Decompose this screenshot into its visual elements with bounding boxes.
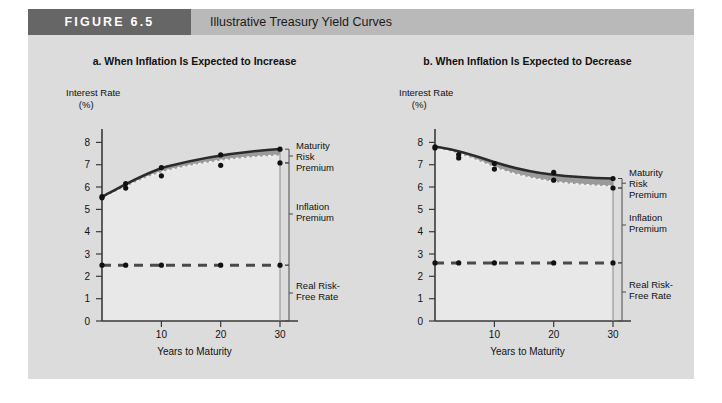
panel-b-bracket-maturity: [618, 179, 626, 189]
panel-b-ytick-3: 3: [417, 249, 423, 260]
panel-b-ytick-2: 2: [417, 271, 423, 282]
panel-b-label-inflation-1: Inflation: [629, 212, 662, 223]
panel-a-y-tick-labels: 0 1 2 3 4 5 6 7 8: [84, 137, 90, 327]
panel-a-label-maturity-2: Risk: [296, 151, 315, 162]
panel-a-bracket-real: [285, 265, 293, 321]
panel-a-xtick-30: 30: [274, 329, 286, 340]
figure-container: FIGURE 6.5 Illustrative Treasury Yield C…: [28, 9, 694, 379]
figure-body: a. When Inflation Is Expected to Increas…: [28, 35, 694, 379]
panel-a-x-axis-label: Years to Maturity: [28, 346, 361, 357]
panel-a-bracket-inflation: [285, 163, 293, 265]
panel-a-ytick-1: 1: [84, 293, 90, 304]
panel-a-plot: 0 1 2 3 4 5 6 7 8: [70, 121, 355, 343]
figure-title: Illustrative Treasury Yield Curves: [210, 9, 392, 35]
panel-a-label-maturity-1: Maturity: [296, 140, 330, 151]
panel-b-title: b. When Inflation Is Expected to Decreas…: [361, 55, 694, 67]
panel-a-x-ticks: [161, 321, 280, 327]
panel-b-chart-svg: 0 1 2 3 4 5 6 7 8: [403, 121, 688, 343]
panel-b-label-inflation-2: Premium: [629, 223, 667, 234]
panel-a-label-inflation-1: Inflation: [296, 201, 329, 212]
panel-b-xtick-10: 10: [489, 329, 501, 340]
panel-a-label-real-1: Real Risk-: [296, 280, 340, 291]
panel-b-x-tick-labels: 10 20 30: [489, 329, 619, 340]
panel-b-ytick-7: 7: [417, 159, 423, 170]
panel-b-bracket-real: [618, 263, 626, 321]
panel-a-xtick-10: 10: [156, 329, 168, 340]
panel-b-xtick-30: 30: [607, 329, 619, 340]
panel-a-chart-svg: 0 1 2 3 4 5 6 7 8: [70, 121, 355, 343]
panel-a-ytick-7: 7: [84, 159, 90, 170]
panel-a-label-maturity-3: Premium: [296, 162, 334, 173]
panel-b-y-axis-label-line1: Interest Rate: [399, 87, 453, 98]
panel-a-ytick-4: 4: [84, 226, 90, 237]
panel-a-y-ticks: [96, 142, 102, 321]
panel-b-label-maturity-3: Premium: [629, 189, 667, 200]
panel-b: b. When Inflation Is Expected to Decreas…: [361, 35, 694, 379]
panel-b-bracket-inflation: [618, 188, 626, 263]
panel-b-label-maturity-1: Maturity: [629, 167, 663, 178]
panel-b-ytick-5: 5: [417, 204, 423, 215]
panel-a: a. When Inflation Is Expected to Increas…: [28, 35, 361, 379]
panel-b-label-real-2: Free Rate: [629, 290, 671, 301]
panel-a-ytick-5: 5: [84, 204, 90, 215]
panel-b-label-real-1: Real Risk-: [629, 279, 673, 290]
panel-a-ytick-0: 0: [84, 316, 90, 327]
panel-a-label-real-2: Free Rate: [296, 291, 338, 302]
panel-a-ytick-3: 3: [84, 249, 90, 260]
panel-b-ytick-8: 8: [417, 137, 423, 148]
panel-a-ytick-6: 6: [84, 182, 90, 193]
panel-b-xtick-20: 20: [548, 329, 560, 340]
panel-b-y-ticks: [429, 142, 435, 321]
panel-b-x-ticks: [494, 321, 613, 327]
panel-a-ytick-8: 8: [84, 137, 90, 148]
panel-b-ytick-0: 0: [417, 316, 423, 327]
panel-b-plot: 0 1 2 3 4 5 6 7 8: [403, 121, 688, 343]
panel-b-ytick-4: 4: [417, 226, 423, 237]
panel-b-y-axis-label: Interest Rate (%): [399, 87, 453, 111]
panel-a-bracket-maturity: [285, 149, 293, 163]
panel-a-lower-region: [102, 156, 280, 322]
panel-a-ytick-2: 2: [84, 271, 90, 282]
panel-a-xtick-20: 20: [215, 329, 227, 340]
panel-a-y-axis-label-units: (%): [66, 99, 120, 111]
panel-b-y-tick-labels: 0 1 2 3 4 5 6 7 8: [417, 137, 423, 327]
panel-a-title: a. When Inflation Is Expected to Increas…: [28, 55, 361, 67]
figure-number-badge: FIGURE 6.5: [28, 9, 191, 35]
panel-b-x-axis-label: Years to Maturity: [361, 346, 694, 357]
panel-a-y-axis-label-line1: Interest Rate: [66, 87, 120, 98]
panel-a-label-inflation-2: Premium: [296, 212, 334, 223]
panel-a-x-tick-labels: 10 20 30: [156, 329, 286, 340]
panel-b-ytick-6: 6: [417, 182, 423, 193]
panel-b-y-axis-label-units: (%): [399, 99, 453, 111]
figure-header: FIGURE 6.5 Illustrative Treasury Yield C…: [28, 9, 694, 35]
panel-b-ytick-1: 1: [417, 293, 423, 304]
panel-b-label-maturity-2: Risk: [629, 178, 648, 189]
panel-a-y-axis-label: Interest Rate (%): [66, 87, 120, 111]
